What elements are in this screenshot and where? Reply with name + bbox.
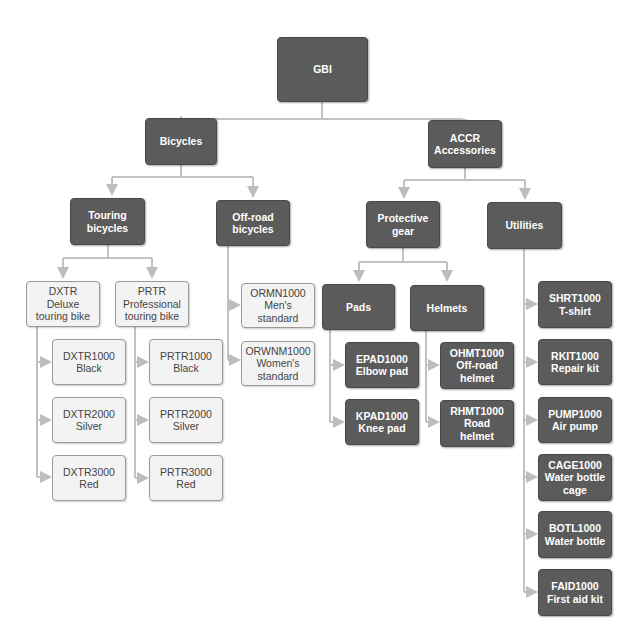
node-code: DXTR2000 [63,408,115,421]
node-code: EPAD1000 [356,353,408,366]
node-code: FAID1000 [551,580,598,593]
node-label-1: Touring [88,209,126,222]
node-label: Red [176,478,195,491]
node-code: CAGE1000 [548,459,602,472]
node-dxtr1000: DXTR1000 Black [52,339,126,385]
node-label-1: Off-road [456,359,497,372]
node-label-2: standard [258,312,299,325]
node-code: PUMP1000 [548,408,602,421]
node-label: Accessories [434,144,496,157]
node-protective-gear: Protective gear [366,201,440,248]
node-code: PRTR [138,285,166,298]
node-label: Water bottle [545,535,605,548]
node-shrt1000: SHRT1000 T-shirt [538,281,612,328]
node-code: OHMT1000 [450,347,504,360]
node-code: DXTR1000 [63,350,115,363]
node-faid1000: FAID1000 First aid kit [538,569,612,616]
node-rkit1000: RKIT1000 Repair kit [538,339,612,385]
node-label: Silver [76,420,102,433]
node-label-2: touring bike [125,310,179,323]
node-botl1000: BOTL1000 Water bottle [538,511,612,558]
node-label: T-shirt [559,305,591,318]
node-prtr1000: PRTR1000 Black [149,339,223,385]
node-label-2: helmet [460,430,494,443]
node-label-1: Deluxe [47,298,80,311]
node-prtr2000: PRTR2000 Silver [149,397,223,443]
node-prtr: PRTR Professional touring bike [115,281,189,327]
node-label: Bicycles [160,135,203,148]
node-helmets: Helmets [410,285,484,331]
node-label: First aid kit [547,593,603,606]
node-offroad-bicycles: Off-road bicycles [216,200,290,246]
node-gbi: GBI [277,37,368,102]
node-label-1: Protective [378,212,429,225]
node-label: Pads [346,301,371,314]
node-label-2: helmet [460,372,494,385]
node-dxtr2000: DXTR2000 Silver [52,397,126,443]
node-label-1: Men's [264,299,292,312]
node-label: Air pump [552,420,598,433]
node-ormn1000: ORMN1000 Men's standard [241,283,315,328]
node-code: KPAD1000 [356,410,408,423]
node-label-2: standard [258,370,299,383]
node-code: DXTR [49,285,78,298]
node-orwnm1000: ORWNM1000 Women's standard [241,341,315,386]
node-cage1000: CAGE1000 Water bottle cage [538,454,612,501]
node-label-1: Water bottle [545,471,605,484]
node-code: PRTR2000 [160,408,212,421]
node-dxtr: DXTR Deluxe touring bike [26,281,100,327]
node-label-1: Women's [256,357,299,370]
node-ohmt1000: OHMT1000 Off-road helmet [440,342,514,389]
node-dxtr3000: DXTR3000 Red [52,455,126,501]
node-label-1: Off-road [232,211,273,224]
node-code: RHMT1000 [450,405,504,418]
node-utilities: Utilities [487,202,562,249]
node-label-1: Professional [123,298,181,311]
node-label: Red [79,478,98,491]
node-label: GBI [313,63,332,76]
node-code: SHRT1000 [549,292,601,305]
node-prtr3000: PRTR3000 Red [149,455,223,501]
node-epad1000: EPAD1000 Elbow pad [345,342,419,388]
node-code: DXTR3000 [63,466,115,479]
node-label: Black [173,362,199,375]
node-label-2: touring bike [36,310,90,323]
node-code: ORWNM1000 [245,345,310,358]
node-code: PRTR1000 [160,350,212,363]
node-touring-bicycles: Touring bicycles [70,198,145,245]
node-label: Black [76,362,102,375]
node-label: Elbow pad [356,365,409,378]
node-pads: Pads [322,284,395,330]
node-label-2: cage [563,484,587,497]
node-rhmt1000: RHMT1000 Road helmet [440,400,514,447]
node-label: Silver [173,420,199,433]
node-label: Knee pad [358,422,405,435]
node-bicycles: Bicycles [145,118,217,165]
node-pump1000: PUMP1000 Air pump [538,397,612,443]
node-code: ORMN1000 [250,287,305,300]
node-kpad1000: KPAD1000 Knee pad [345,399,419,445]
node-accr-accessories: ACCR Accessories [428,120,502,168]
node-label: Helmets [427,302,468,315]
node-label-2: gear [392,225,414,238]
node-code: RKIT1000 [551,350,599,363]
node-label-2: bicycles [232,223,273,236]
node-code: PRTR3000 [160,466,212,479]
node-code: BOTL1000 [549,522,601,535]
node-label-1: Road [464,417,490,430]
node-label: Repair kit [551,362,599,375]
node-code: ACCR [450,132,480,145]
node-label: Utilities [506,219,544,232]
node-label-2: bicycles [87,222,128,235]
